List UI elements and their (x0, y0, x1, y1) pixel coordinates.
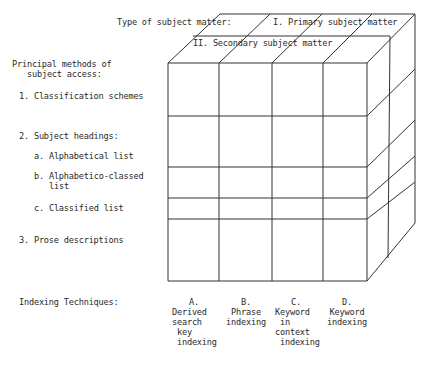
column-letter-d: D. (322, 297, 372, 307)
row-label-subject-headings: 2. Subject headings: (19, 131, 118, 141)
row-label-classified: c. Classified list (34, 203, 124, 213)
row-label-prose: 3. Prose descriptions (19, 235, 123, 245)
row-label-alphabetico-classed: b. Alphabetico-classed (34, 171, 143, 181)
side-bottom-diag (367, 223, 415, 281)
subject-type-primary: I. Primary subject matter (273, 17, 397, 27)
side-mid-edge (388, 36, 390, 258)
row-label-alphabetico-classed-cont: list (49, 181, 69, 191)
column-text-d: Keyword indexing (322, 307, 372, 327)
side-row-diag (367, 69, 415, 116)
column-letter-b: B. (221, 297, 271, 307)
column-text-a: Derived search key indexing (172, 307, 222, 347)
column-letter-a: A. (169, 297, 219, 307)
side-row-diag (367, 156, 415, 198)
column-text-c: Keyword in context indexing (275, 307, 325, 347)
row-label-classification: 1. Classification schemes (19, 91, 143, 101)
column-text-b: Phrase indexing (221, 307, 271, 327)
rows-heading-line2: subject access: (27, 69, 102, 79)
rows-heading-line1: Principal methods of (12, 59, 111, 69)
dimension-axis-label: Type of subject matter: (117, 17, 231, 27)
front-face (168, 63, 367, 281)
subject-type-secondary: II. Secondary subject matter (193, 38, 332, 48)
side-row-diag (367, 182, 415, 219)
row-label-alphabetical: a. Alphabetical list (34, 151, 133, 161)
columns-heading: Indexing Techniques: (19, 297, 118, 307)
column-letter-c: C. (271, 297, 321, 307)
side-row-diag (367, 120, 415, 167)
